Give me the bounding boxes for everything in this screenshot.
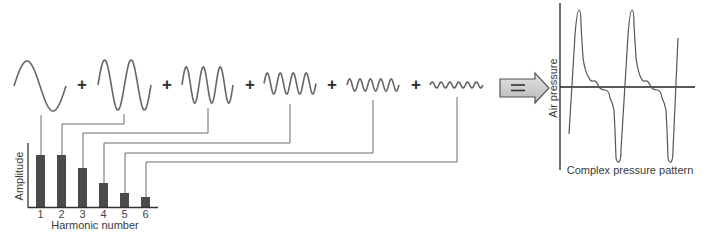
amplitude-bar-5 [120,193,129,207]
connector-line-4 [104,104,290,183]
connector-line-3 [83,108,208,168]
harmonic-number-axis-label: Harmonic number [51,219,138,231]
harmonic-tick-label: 6 [142,208,148,220]
fourier-diagram: +++++ Amplitude 123456 Harmonic number A… [0,0,707,232]
connector-line-6 [146,97,457,197]
harmonic-wave-4 [264,73,316,94]
complex-pressure-curve [569,10,678,162]
plus-sign: + [77,75,87,95]
amplitude-bar-6 [141,197,150,207]
harmonic-wave-5 [347,79,399,91]
complex-pressure-caption: Complex pressure pattern [567,164,694,176]
amplitude-bar-1 [36,155,45,207]
harmonic-tick-label: 1 [37,208,43,220]
amplitude-axis-label: Amplitude [13,152,25,201]
plus-sign: + [162,75,172,95]
plus-sign: + [411,75,421,95]
air-pressure-axis-label: Air pressure [547,58,559,117]
amplitude-bar-4 [99,183,108,207]
plus-sign: + [327,75,337,95]
harmonic-wave-1 [14,61,66,111]
harmonic-wave-2 [98,60,151,110]
connector-line-5 [125,100,373,193]
amplitude-bars [36,155,150,207]
amplitude-bar-2 [57,155,66,207]
diagram-canvas [0,0,707,232]
pressure-graph [560,3,695,170]
connector-line-2 [62,114,124,155]
arrow-shape [500,73,549,103]
equals-arrow [500,73,549,103]
amplitude-bar-3 [78,168,87,207]
plus-sign: + [245,75,255,95]
connector-lines [41,97,457,197]
harmonic-wave-6 [430,82,483,88]
harmonic-wave-3 [182,67,233,103]
